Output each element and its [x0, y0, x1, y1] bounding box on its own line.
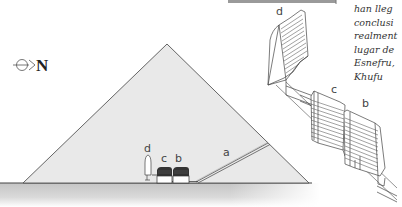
caption-line: realment [354, 29, 402, 43]
chamber-c [157, 167, 172, 183]
chamber-b [173, 167, 189, 183]
side-caption: han lleg conclusi realment lugar de Esne… [354, 2, 402, 83]
iso-chamber-b [344, 110, 385, 186]
iso-chamber-c [311, 91, 347, 156]
iso-label-b: b [362, 97, 369, 110]
label-b: b [175, 152, 182, 165]
compass-arrow-icon [29, 60, 35, 70]
ground [0, 183, 320, 207]
iso-chamber-d [268, 10, 316, 106]
caption-line: lugar de [354, 43, 402, 57]
top-bar [228, 0, 336, 3]
iso-label-d: d [276, 5, 283, 18]
caption-line: Esnefru, [354, 56, 402, 70]
caption-line: Khufu [354, 70, 402, 84]
label-d: d [144, 142, 151, 155]
label-c: c [161, 152, 167, 165]
north-compass: N [13, 56, 49, 75]
north-label: N [36, 56, 49, 75]
label-a: a [223, 146, 230, 159]
iso-label-c: c [331, 83, 337, 96]
caption-line: han lleg [354, 2, 402, 16]
caption-line: conclusi [354, 16, 402, 30]
